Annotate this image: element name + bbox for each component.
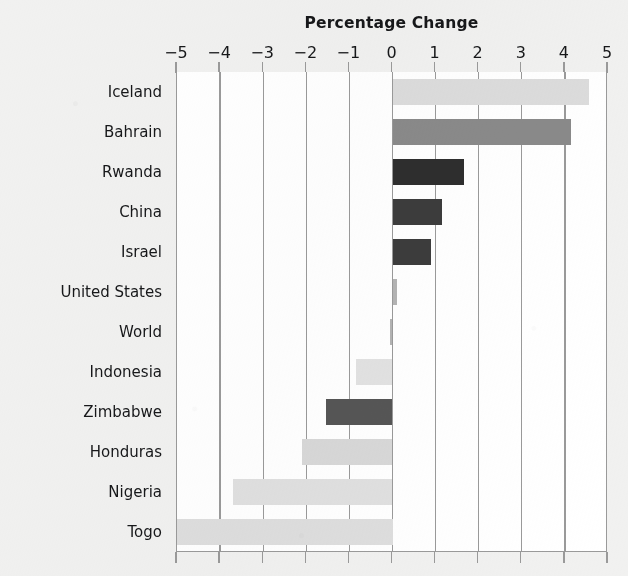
- bar: [390, 319, 392, 345]
- bar: [393, 119, 572, 145]
- x-axis-tick-label: 4: [559, 43, 569, 62]
- y-axis-category-label: China: [119, 203, 162, 221]
- x-axis-tick: [477, 552, 478, 563]
- gridline: [219, 72, 220, 551]
- x-axis-tick: [348, 552, 349, 563]
- x-axis-tick-label: 1: [430, 43, 440, 62]
- x-axis-tick: [520, 552, 521, 563]
- y-axis-category-label: United States: [60, 283, 162, 301]
- x-axis-tick-label: 0: [386, 43, 396, 62]
- bar: [356, 359, 393, 385]
- chart-title: Percentage Change: [176, 14, 607, 32]
- x-axis-tick: [218, 552, 219, 563]
- x-axis-tick-label: −3: [250, 43, 274, 62]
- bar: [393, 159, 464, 185]
- x-axis-tick-label: −2: [294, 43, 318, 62]
- x-axis-tick: [434, 552, 435, 563]
- y-axis-category-label: Nigeria: [108, 483, 162, 501]
- bar: [393, 199, 443, 225]
- bar-chart-figure: Percentage Change −5−4−3−2−1012345 Icela…: [0, 0, 628, 576]
- x-axis-bottom-ticks: [176, 552, 607, 563]
- x-axis-tick: [262, 552, 263, 563]
- y-axis-category-label: Togo: [128, 523, 163, 541]
- bar: [326, 399, 393, 425]
- y-axis-category-label: Zimbabwe: [83, 403, 162, 421]
- x-axis-tick-label: −5: [164, 43, 188, 62]
- y-axis-category-label: Honduras: [90, 443, 162, 461]
- x-axis-tick: [305, 552, 306, 563]
- x-axis-tick-label: −4: [207, 43, 231, 62]
- x-axis-tick-label: 5: [602, 43, 612, 62]
- y-axis-category-label: Iceland: [108, 83, 162, 101]
- bar: [233, 479, 392, 505]
- bar: [302, 439, 393, 465]
- x-axis-tick-label: −1: [337, 43, 361, 62]
- y-axis-category-label: Rwanda: [102, 163, 162, 181]
- bar: [176, 519, 393, 545]
- y-axis-category-label: Indonesia: [89, 363, 162, 381]
- y-axis-category-label: Israel: [121, 243, 162, 261]
- plot-area: [176, 72, 607, 552]
- x-axis-tick-labels: −5−4−3−2−1012345: [0, 43, 628, 65]
- y-axis-category-labels: IcelandBahrainRwandaChinaIsraelUnited St…: [0, 72, 170, 552]
- x-axis-tick-label: 2: [473, 43, 483, 62]
- x-axis-tick: [391, 552, 392, 563]
- bar: [393, 239, 432, 265]
- bar: [393, 279, 397, 305]
- y-axis-category-label: World: [119, 323, 162, 341]
- bar: [393, 79, 589, 105]
- x-axis-tick-label: 3: [516, 43, 526, 62]
- x-axis-tick: [563, 552, 564, 563]
- y-axis-category-label: Bahrain: [104, 123, 162, 141]
- x-axis-tick: [606, 552, 607, 563]
- x-axis-tick: [175, 552, 176, 563]
